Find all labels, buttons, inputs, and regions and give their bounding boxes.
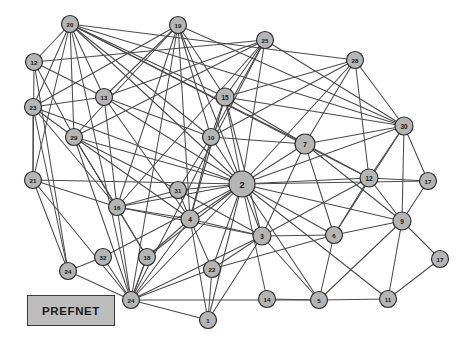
graph-node[interactable]: 13: [96, 89, 113, 106]
graph-node[interactable]: 1: [200, 312, 217, 329]
node-circle[interactable]: [66, 129, 83, 146]
graph-node[interactable]: 11: [380, 291, 397, 308]
graph-node[interactable]: 6: [326, 227, 343, 244]
graph-edge: [262, 178, 369, 236]
graph-node[interactable]: 5: [311, 292, 328, 309]
graph-node[interactable]: 31: [170, 182, 187, 199]
node-circle[interactable]: [60, 263, 77, 280]
graph-node[interactable]: 24: [123, 292, 140, 309]
node-circle[interactable]: [203, 129, 220, 146]
node-circle[interactable]: [432, 251, 449, 268]
node-circle[interactable]: [295, 134, 315, 154]
graph-edge: [242, 126, 404, 184]
node-circle[interactable]: [139, 249, 156, 266]
node-circle[interactable]: [123, 292, 140, 309]
graph-edge: [131, 300, 208, 320]
graph-node[interactable]: 12: [360, 169, 378, 187]
graph-edge: [319, 235, 334, 300]
graph-node[interactable]: 9: [393, 212, 411, 230]
graph-node[interactable]: 14: [259, 291, 276, 308]
node-circle[interactable]: [170, 17, 187, 34]
graph-edge: [33, 180, 68, 271]
legend-label: PREFNET: [42, 305, 100, 317]
node-circle[interactable]: [420, 173, 437, 190]
graph-edge: [74, 137, 190, 219]
graph-edge: [305, 126, 404, 144]
node-circle[interactable]: [229, 171, 255, 197]
network-figure: 2019252812131523301029721217213116496318…: [0, 0, 466, 354]
graph-node[interactable]: 12: [26, 54, 43, 71]
graph-node[interactable]: 17: [432, 251, 449, 268]
graph-node[interactable]: 24: [60, 263, 77, 280]
graph-edge: [388, 259, 440, 299]
graph-node[interactable]: 20: [62, 16, 79, 33]
node-circle[interactable]: [380, 291, 397, 308]
graph-node[interactable]: 7: [295, 134, 315, 154]
graph-edge: [33, 97, 104, 107]
graph-node[interactable]: 32: [95, 249, 112, 266]
node-circle[interactable]: [95, 249, 112, 266]
node-circle[interactable]: [360, 169, 378, 187]
graph-edge: [355, 60, 404, 126]
node-circle[interactable]: [216, 88, 234, 106]
graph-node[interactable]: 10: [203, 129, 220, 146]
node-circle[interactable]: [170, 182, 187, 199]
graph-edge: [208, 236, 262, 320]
node-circle[interactable]: [259, 291, 276, 308]
graph-node[interactable]: 23: [25, 99, 42, 116]
graph-node[interactable]: 4: [181, 210, 199, 228]
graph-edge: [33, 180, 117, 207]
node-circle[interactable]: [26, 54, 43, 71]
graph-edge: [262, 235, 334, 236]
graph-node[interactable]: 29: [66, 129, 83, 146]
graph-node[interactable]: 25: [257, 32, 274, 49]
graph-node[interactable]: 15: [216, 88, 234, 106]
graph-node[interactable]: 21: [25, 172, 42, 189]
graph-node[interactable]: 2: [229, 171, 255, 197]
node-circle[interactable]: [253, 227, 271, 245]
legend-box: PREFNET: [27, 295, 115, 326]
graph-edge: [34, 40, 265, 62]
graph-node[interactable]: 16: [109, 199, 126, 216]
graph-node[interactable]: 19: [170, 17, 187, 34]
graph-edge: [70, 24, 104, 97]
node-circle[interactable]: [395, 117, 413, 135]
graph-node[interactable]: 30: [395, 117, 413, 135]
graph-node[interactable]: 18: [139, 249, 156, 266]
node-circle[interactable]: [204, 261, 221, 278]
graph-node[interactable]: 3: [253, 227, 271, 245]
node-circle[interactable]: [25, 172, 42, 189]
graph-edge: [402, 126, 404, 221]
node-circle[interactable]: [326, 227, 343, 244]
graph-edge: [334, 221, 402, 235]
graph-edge: [319, 299, 388, 300]
node-circle[interactable]: [200, 312, 217, 329]
graph-edge: [33, 107, 68, 271]
node-circle[interactable]: [347, 52, 364, 69]
node-circle[interactable]: [257, 32, 274, 49]
graph-edge: [34, 62, 104, 97]
node-circle[interactable]: [96, 89, 113, 106]
graph-node[interactable]: 17: [420, 173, 437, 190]
graph-edge: [70, 24, 404, 126]
node-circle[interactable]: [25, 99, 42, 116]
graph-edge: [131, 236, 262, 300]
node-circle[interactable]: [109, 199, 126, 216]
node-circle[interactable]: [393, 212, 411, 230]
node-circle[interactable]: [181, 210, 199, 228]
graph-node[interactable]: 22: [204, 261, 221, 278]
graph-edge: [178, 25, 404, 126]
graph-edge: [225, 97, 305, 144]
node-circle[interactable]: [311, 292, 328, 309]
graph-edge: [131, 269, 212, 300]
graph-node[interactable]: 28: [347, 52, 364, 69]
node-circle[interactable]: [62, 16, 79, 33]
graph-edge: [262, 236, 319, 300]
